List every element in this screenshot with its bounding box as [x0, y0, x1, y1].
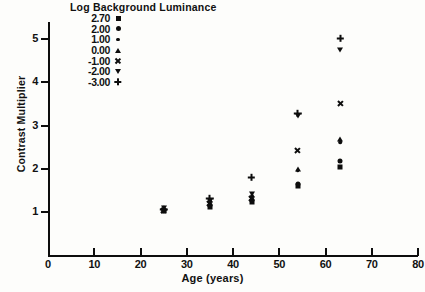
x-tick [186, 248, 188, 256]
data-point [295, 182, 300, 187]
y-tick-label: 1 [2, 205, 38, 217]
data-point [338, 164, 343, 169]
x-tick-label: 80 [406, 258, 425, 270]
y-tick [41, 211, 49, 213]
x-tick [417, 248, 419, 256]
legend-rows: 2.702.001.000.00-1.00-2.00-3.00 [62, 13, 217, 87]
legend-marker-plus-icon [110, 77, 126, 87]
y-tick [41, 81, 49, 83]
data-point [337, 100, 344, 107]
data-point [295, 166, 301, 171]
y-axis-line [48, 22, 50, 257]
data-point [206, 195, 213, 202]
x-tick [93, 248, 95, 256]
legend-marker-square-icon [110, 13, 126, 23]
x-tick-label: 20 [129, 258, 153, 270]
data-point [337, 35, 344, 42]
x-tick [278, 248, 280, 256]
y-tick-label: 5 [2, 32, 38, 44]
legend-marker-dot-icon [110, 34, 126, 44]
data-point [248, 195, 255, 202]
x-tick-label: 0 [36, 258, 60, 270]
x-tick [232, 248, 234, 256]
x-tick-label: 10 [82, 258, 106, 270]
data-point [294, 110, 301, 117]
x-tick-label: 50 [267, 258, 291, 270]
y-tick [41, 168, 49, 170]
legend-item-label: -3.00 [76, 76, 110, 88]
x-tick [325, 248, 327, 256]
x-tick-label: 60 [314, 258, 338, 270]
legend-title: Log Background Luminance [70, 1, 217, 13]
legend-marker-circle-icon [110, 24, 126, 34]
legend-marker-cross-icon [110, 56, 126, 66]
data-point [160, 206, 167, 213]
data-point [337, 48, 343, 53]
x-tick [371, 248, 373, 256]
data-point [248, 174, 255, 181]
x-tick-label: 40 [221, 258, 245, 270]
data-point [249, 191, 255, 196]
x-tick-label: 70 [360, 258, 384, 270]
x-tick-label: 30 [175, 258, 199, 270]
data-point [337, 137, 343, 142]
legend-marker-triangle-down-icon [110, 66, 126, 76]
scatter-plot: Log Background Luminance 2.702.001.000.0… [0, 0, 425, 292]
data-point [294, 147, 301, 154]
legend-marker-triangle-up-icon [110, 45, 126, 55]
data-point [338, 158, 343, 163]
legend-item[interactable]: -3.00 [76, 77, 217, 88]
x-axis-title: Age (years) [0, 272, 425, 284]
y-tick [41, 125, 49, 127]
y-tick [41, 38, 49, 40]
legend: Log Background Luminance 2.702.001.000.0… [62, 1, 217, 87]
x-tick [140, 248, 142, 256]
y-axis-title: Contrast Multiplier [15, 59, 27, 189]
